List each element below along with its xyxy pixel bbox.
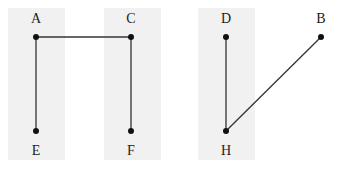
node-label-F: F bbox=[127, 144, 135, 158]
graph-canvas bbox=[0, 0, 349, 169]
node-label-B: B bbox=[316, 12, 325, 26]
node-F bbox=[128, 128, 134, 134]
node-B bbox=[318, 34, 324, 40]
node-C bbox=[128, 34, 134, 40]
edge-H-B bbox=[226, 37, 321, 131]
node-E bbox=[33, 128, 39, 134]
node-label-H: H bbox=[221, 144, 231, 158]
node-D bbox=[223, 34, 229, 40]
node-label-A: A bbox=[31, 12, 41, 26]
node-label-E: E bbox=[32, 144, 41, 158]
node-H bbox=[223, 128, 229, 134]
node-label-C: C bbox=[126, 12, 135, 26]
node-A bbox=[33, 34, 39, 40]
node-label-D: D bbox=[221, 12, 231, 26]
